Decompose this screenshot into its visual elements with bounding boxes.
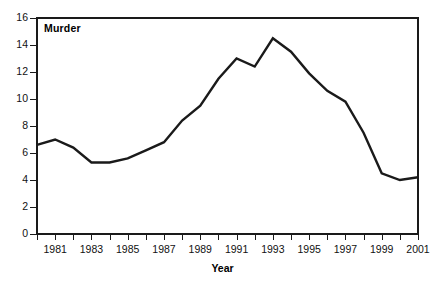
murder-rate-line-chart: 0246810121416 19811983198519871989199119… (0, 0, 445, 288)
x-axis-title: Year (0, 262, 445, 274)
murder-series-line (37, 38, 418, 180)
panel-title: Murder (44, 22, 81, 34)
data-series-layer (0, 0, 445, 288)
